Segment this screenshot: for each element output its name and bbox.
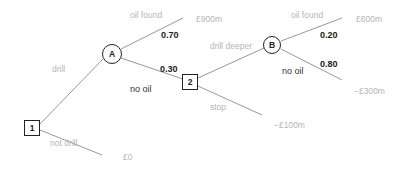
branch-label-b-oil-found: oil found xyxy=(291,11,323,20)
branch-label-b-no-oil: no oil xyxy=(282,67,304,76)
payoff-b-oil-found: £600m xyxy=(356,15,382,24)
chance-node-a-label: A xyxy=(109,49,115,59)
edge-drill-deeper xyxy=(198,48,264,78)
chance-node-b-label: B xyxy=(269,40,275,50)
decision-node-1-label: 1 xyxy=(30,123,35,133)
branch-label-a-no-oil: no oil xyxy=(130,85,152,94)
payoff-a-oil-found: £900m xyxy=(196,15,222,24)
chance-node-a: A xyxy=(102,44,122,64)
chance-node-b: B xyxy=(263,36,281,54)
probability-b-oil-found: 0.20 xyxy=(320,31,338,40)
decision-node-1: 1 xyxy=(24,120,40,136)
branch-label-stop: stop xyxy=(210,103,226,112)
probability-b-no-oil: 0.80 xyxy=(320,60,338,69)
payoff-b-no-oil: −£300m xyxy=(354,87,385,96)
branch-label-not-drill: not drill xyxy=(50,139,77,148)
edge-drill xyxy=(40,59,103,124)
edge-stop xyxy=(198,86,262,115)
branch-label-a-oil-found: oil found xyxy=(130,11,162,20)
payoff-stop: −£100m xyxy=(274,121,305,130)
payoff-not-drill: £0 xyxy=(123,153,132,162)
decision-node-2-label: 2 xyxy=(188,77,193,87)
probability-a-no-oil: 0.30 xyxy=(160,65,178,74)
branch-label-drill-deeper: drill deeper xyxy=(210,42,252,51)
probability-a-oil-found: 0.70 xyxy=(161,31,179,40)
branch-label-drill: drill xyxy=(52,65,65,74)
decision-node-2: 2 xyxy=(182,74,198,90)
